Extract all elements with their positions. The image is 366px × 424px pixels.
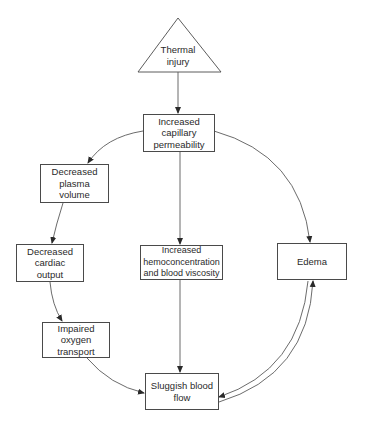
node-label: Impaired oxygen transport [57, 323, 95, 358]
arrow-capillary-to-edema [214, 131, 310, 242]
arrow-edema-to-sluggish [219, 281, 308, 397]
node-oxygen-transport: Impaired oxygen transport [42, 322, 110, 358]
node-label: Edema [297, 256, 327, 268]
node-hemoconcentration: Increased hemoconcentration and blood vi… [140, 245, 223, 280]
node-edema: Edema [277, 243, 347, 280]
node-sluggish-blood-flow: Sluggish blood flow [145, 373, 219, 410]
node-label: Increased capillary permeability [153, 116, 204, 151]
node-cardiac-output: Decreased cardiac output [16, 244, 84, 282]
node-plasma-volume: Decreased plasma volume [40, 164, 109, 203]
node-capillary-permeability: Increased capillary permeability [143, 114, 215, 152]
arrow-plasma-to-cardiac [52, 203, 63, 243]
arrow-cardiac-to-oxygen [50, 282, 62, 321]
node-label: Decreased cardiac output [27, 246, 73, 281]
node-thermal-injury: Thermal injury [148, 44, 208, 67]
arrow-sluggish-to-edema [219, 281, 313, 402]
node-label: Sluggish blood flow [151, 380, 213, 403]
arrow-capillary-to-plasma [88, 131, 143, 163]
node-label: Decreased plasma volume [52, 166, 98, 201]
arrow-oxygen-to-sluggish [87, 358, 144, 393]
node-label: Increased hemoconcentration and blood vi… [143, 245, 220, 280]
